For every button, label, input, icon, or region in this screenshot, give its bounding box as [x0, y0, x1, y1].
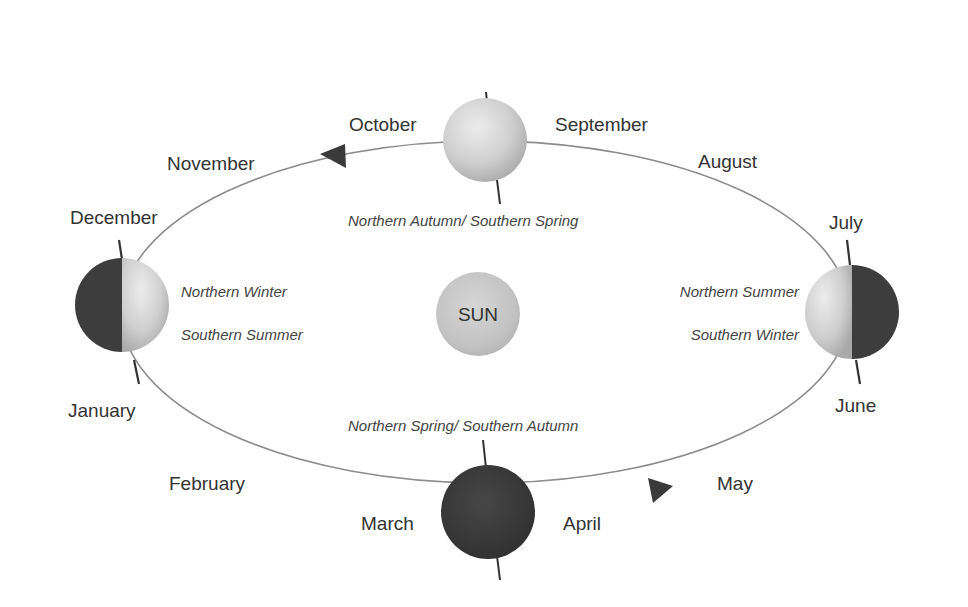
- sun-label: SUN: [458, 304, 498, 325]
- month-label-december: December: [70, 207, 158, 228]
- sun: SUN: [436, 272, 520, 356]
- month-label-august: August: [698, 151, 758, 172]
- month-label-february: February: [169, 473, 246, 494]
- earth-bottom-spring: [441, 440, 535, 580]
- month-label-october: October: [349, 114, 417, 135]
- earth-left-winter: [75, 240, 170, 384]
- month-label-june: June: [835, 395, 876, 416]
- month-label-july: July: [829, 212, 863, 233]
- month-label-january: January: [68, 400, 136, 421]
- orbit-seasons-diagram: SUN: [0, 0, 968, 607]
- season-label-left-south: Southern Summer: [181, 326, 304, 343]
- month-label-september: September: [555, 114, 649, 135]
- month-label-april: April: [563, 513, 601, 534]
- orbit-direction-arrow-icon: [320, 144, 346, 168]
- month-label-may: May: [717, 473, 753, 494]
- earth-top-autumn: [443, 92, 527, 204]
- season-label-right-south: Southern Winter: [691, 326, 800, 343]
- season-label-left-north: Northern Winter: [181, 283, 288, 300]
- month-label-november: November: [167, 153, 255, 174]
- earth-right-summer: [805, 240, 900, 384]
- season-label-right-north: Northern Summer: [680, 283, 800, 300]
- season-label-bottom: Northern Spring/ Southern Autumn: [348, 417, 578, 434]
- orbit-direction-arrow-icon: [648, 478, 673, 503]
- season-label-top: Northern Autumn/ Southern Spring: [348, 212, 579, 229]
- month-label-march: March: [361, 513, 414, 534]
